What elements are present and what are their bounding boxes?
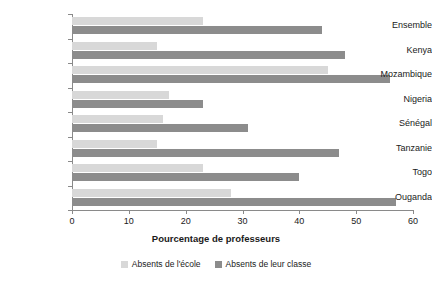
y-axis-tick (68, 112, 72, 113)
x-axis-tick (243, 210, 244, 214)
bar (72, 198, 396, 206)
x-axis-tick-label: 40 (294, 216, 304, 227)
y-axis-tick (68, 39, 72, 40)
y-axis-tick (68, 137, 72, 138)
legend-item: Absents de l'école (121, 259, 201, 269)
x-axis-tick (413, 210, 414, 214)
y-axis-tick (68, 88, 72, 89)
bar-group (72, 140, 413, 157)
x-axis-tick-label: 20 (181, 216, 191, 227)
y-axis-tick (68, 14, 72, 15)
y-axis-label: Ouganda (364, 192, 432, 202)
y-axis-tick (68, 63, 72, 64)
bar (72, 17, 203, 25)
x-axis-tick (129, 210, 130, 214)
bar (72, 100, 203, 108)
bar (72, 66, 328, 74)
bar (72, 140, 157, 148)
bar-group (72, 42, 413, 59)
chart-legend: Absents de l'écoleAbsents de leur classe (0, 259, 432, 269)
bar (72, 75, 390, 83)
x-axis-tick (299, 210, 300, 214)
bar-group (72, 17, 413, 34)
bar (72, 26, 322, 34)
x-axis-title: Pourcentage de professeurs (0, 233, 432, 244)
bar-group (72, 115, 413, 132)
legend-swatch-icon (121, 261, 128, 268)
x-axis-tick (72, 210, 73, 214)
y-axis-label: Kenya (364, 45, 432, 55)
bar (72, 124, 248, 132)
bar (72, 164, 203, 172)
bar-chart: EnsembleKenyaMozambiqueNigeriaSénégalTan… (0, 0, 432, 282)
y-axis-label: Sénégal (364, 118, 432, 128)
y-axis-tick (68, 161, 72, 162)
bar (72, 42, 157, 50)
x-axis-tick-label: 10 (124, 216, 134, 227)
bar-group (72, 189, 413, 206)
x-axis-tick-label: 0 (69, 216, 74, 227)
y-axis-tick (68, 186, 72, 187)
x-axis-tick-label: 60 (408, 216, 418, 227)
x-axis-tick (186, 210, 187, 214)
x-axis-tick (356, 210, 357, 214)
bar-group (72, 91, 413, 108)
bar (72, 189, 231, 197)
legend-label: Absents de leur classe (226, 259, 312, 269)
y-axis-label: Tanzanie (364, 143, 432, 153)
bar-group (72, 164, 413, 181)
y-axis-label: Ensemble (364, 20, 432, 30)
plot-area (72, 14, 413, 210)
y-axis-label: Mozambique (364, 69, 432, 79)
x-axis-tick-label: 30 (237, 216, 247, 227)
x-axis-tick-label: 50 (351, 216, 361, 227)
bar (72, 91, 169, 99)
y-axis-label: Nigeria (364, 94, 432, 104)
bar (72, 51, 345, 59)
bar (72, 115, 163, 123)
legend-item: Absents de leur classe (215, 259, 312, 269)
bar (72, 173, 299, 181)
bar-group (72, 66, 413, 83)
bar (72, 149, 339, 157)
legend-label: Absents de l'école (132, 259, 201, 269)
y-axis-label: Togo (364, 167, 432, 177)
legend-swatch-icon (215, 261, 222, 268)
